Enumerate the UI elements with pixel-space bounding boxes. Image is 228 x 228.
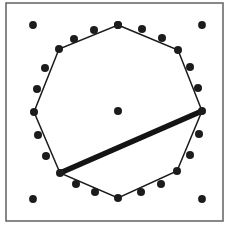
ring-09 (91, 188, 99, 196)
ring-15 (70, 35, 78, 43)
vertex-lower-left (56, 169, 64, 177)
ring-16 (90, 26, 98, 34)
ring-08 (137, 188, 145, 196)
ring-10 (72, 180, 80, 188)
ring-05 (195, 130, 203, 138)
ring-02 (158, 34, 166, 42)
center-dot (114, 107, 122, 115)
corner-top-right (198, 21, 206, 29)
ring-04 (194, 84, 202, 92)
vertex-left (30, 108, 38, 116)
vertex-bottom (114, 194, 122, 202)
ring-03 (186, 63, 194, 71)
figure-root (0, 0, 228, 228)
ring-11 (42, 152, 50, 160)
corner-bottom-right (198, 195, 206, 203)
ring-01 (138, 25, 146, 33)
geometry-figure (0, 0, 228, 228)
corner-top-left (29, 21, 37, 29)
vertex-upper-right (174, 46, 182, 54)
corner-bottom-left (29, 195, 37, 203)
vertex-lower-right (173, 167, 181, 175)
ring-14 (41, 64, 49, 72)
ring-07 (157, 180, 165, 188)
ring-12 (34, 131, 42, 139)
vertex-top (114, 21, 122, 29)
ring-13 (33, 85, 41, 93)
center-dot-group (114, 107, 122, 115)
vertex-upper-left (55, 45, 63, 53)
ring-06 (186, 151, 194, 159)
vertex-right (198, 107, 206, 115)
